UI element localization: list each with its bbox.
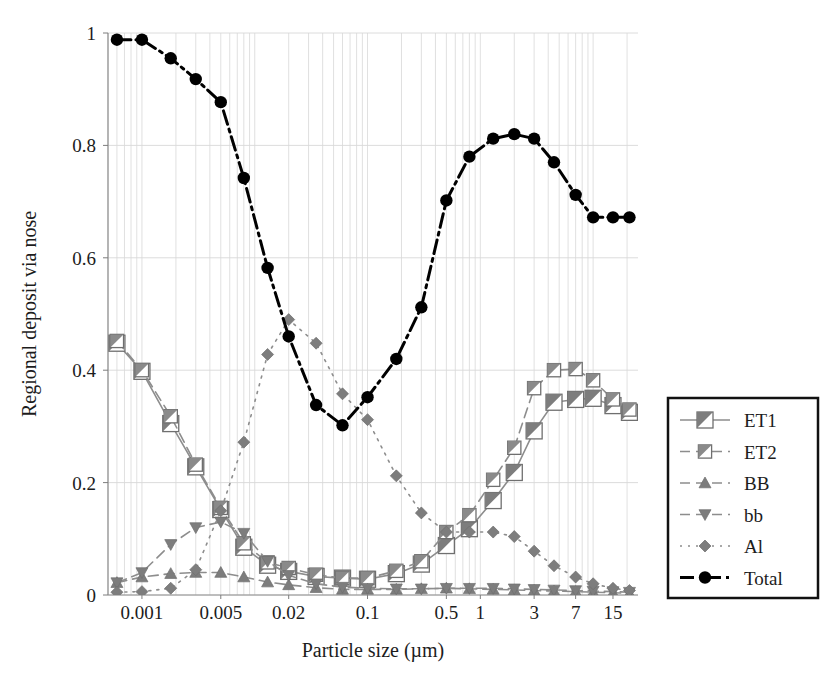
- marker-triangle-down: [136, 568, 148, 579]
- legend-label-et1: ET1: [744, 410, 777, 431]
- data-point-marker: [261, 262, 273, 274]
- marker-circle: [569, 189, 581, 201]
- marker-circle: [215, 96, 227, 108]
- data-point-marker: [337, 388, 349, 400]
- y-tick-label: 1: [87, 23, 97, 44]
- x-axis-tick-labels: 0.0010.0050.020.10.513715: [121, 595, 623, 623]
- y-tick-label: 0.8: [72, 135, 96, 156]
- marker-circle: [261, 262, 273, 274]
- grid-lines: [108, 33, 638, 595]
- y-tick-label: 0.4: [72, 360, 96, 381]
- data-point-marker: [310, 399, 322, 411]
- marker-diamond: [262, 348, 274, 360]
- legend-label-bb: BB: [744, 473, 769, 494]
- data-point-marker: [528, 545, 540, 557]
- data-point-marker: [238, 172, 250, 184]
- marker-circle: [463, 150, 475, 162]
- x-tick-label: 1: [476, 602, 486, 623]
- marker-circle: [528, 132, 540, 144]
- data-point-marker: [390, 470, 402, 482]
- data-point-marker: [283, 330, 295, 342]
- marker-triangle-down: [165, 540, 177, 551]
- data-point-marker: [699, 571, 711, 583]
- x-tick-label: 3: [529, 602, 539, 623]
- marker-circle: [623, 211, 635, 223]
- data-point-marker: [607, 211, 619, 223]
- data-point-marker: [485, 493, 501, 509]
- data-point-marker: [697, 412, 713, 428]
- data-point-marker: [606, 393, 619, 406]
- data-point-marker: [164, 410, 177, 423]
- marker-circle: [238, 172, 250, 184]
- data-point-marker: [336, 419, 348, 431]
- marker-circle: [508, 128, 520, 140]
- marker-diamond: [528, 545, 540, 557]
- data-point-marker: [570, 571, 582, 583]
- data-point-marker: [546, 394, 562, 410]
- chart-figure: 0.0010.0050.020.10.513715 00.20.40.60.81…: [0, 0, 834, 685]
- data-point-marker: [623, 211, 635, 223]
- y-axis-tick-labels: 00.20.40.60.81: [72, 23, 108, 606]
- legend-label-al: Al: [744, 536, 763, 557]
- marker-circle: [440, 194, 452, 206]
- data-point-marker: [390, 353, 402, 365]
- legend-label-et2: ET2: [744, 442, 777, 463]
- plot-axes: [108, 33, 638, 595]
- data-point-marker: [463, 150, 475, 162]
- data-point-marker: [506, 464, 522, 480]
- marker-diamond: [548, 560, 560, 572]
- data-point-marker: [361, 391, 373, 403]
- x-tick-label: 15: [603, 602, 622, 623]
- data-point-marker: [569, 189, 581, 201]
- data-point-marker: [438, 538, 454, 554]
- x-tick-label: 0.1: [356, 602, 380, 623]
- marker-circle: [587, 211, 599, 223]
- data-point-marker: [548, 560, 560, 572]
- legend-label-total: Total: [744, 568, 783, 589]
- data-point-marker: [587, 211, 599, 223]
- marker-circle: [136, 34, 148, 46]
- x-tick-label: 0.5: [434, 602, 458, 623]
- x-tick-label: 0.005: [199, 602, 242, 623]
- data-point-marker: [165, 540, 177, 551]
- marker-circle: [361, 391, 373, 403]
- marker-circle: [336, 419, 348, 431]
- y-tick-label: 0: [87, 585, 97, 606]
- data-point-marker: [698, 445, 711, 458]
- data-point-marker: [526, 423, 542, 439]
- data-point-marker: [165, 568, 177, 579]
- marker-diamond: [390, 470, 402, 482]
- marker-diamond: [508, 531, 520, 543]
- marker-circle: [487, 132, 499, 144]
- data-point-marker: [238, 436, 250, 448]
- marker-circle: [190, 73, 202, 85]
- data-point-marker: [528, 382, 541, 395]
- marker-diamond: [238, 436, 250, 448]
- x-axis-title: Particle size (µm): [302, 639, 445, 662]
- data-point-marker: [547, 364, 560, 377]
- data-point-marker: [487, 473, 500, 486]
- chart-legend: ET1ET2BBbbAlTotal: [668, 398, 818, 598]
- y-tick-label: 0.2: [72, 473, 96, 494]
- data-point-marker: [135, 364, 148, 377]
- data-point-marker: [463, 509, 476, 522]
- marker-circle: [415, 301, 427, 313]
- data-point-marker: [110, 334, 123, 347]
- data-point-marker: [136, 568, 148, 579]
- data-point-marker: [415, 555, 428, 568]
- legend-label-bb: bb: [744, 505, 763, 526]
- x-tick-label: 7: [571, 602, 581, 623]
- data-point-marker: [189, 458, 202, 471]
- data-point-marker: [165, 52, 177, 64]
- marker-circle: [111, 34, 123, 46]
- data-point-marker: [569, 362, 582, 375]
- x-tick-label: 0.02: [272, 602, 305, 623]
- data-point-marker: [190, 523, 202, 534]
- marker-triangle-up: [165, 568, 177, 579]
- data-point-marker: [585, 390, 601, 406]
- data-point-marker: [111, 34, 123, 46]
- data-point-marker: [390, 564, 403, 577]
- marker-diamond: [111, 586, 123, 598]
- data-point-marker: [548, 156, 560, 168]
- marker-diamond: [415, 507, 427, 519]
